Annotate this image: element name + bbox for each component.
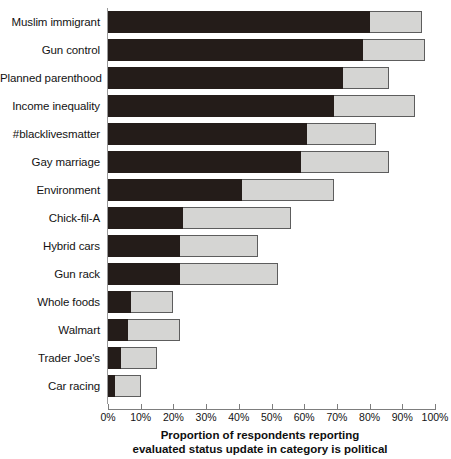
bar-row: Whole foods (0, 288, 451, 316)
bar-segment-dark (108, 375, 115, 397)
x-axis-tick (402, 404, 403, 410)
stacked-bar (108, 291, 173, 313)
bar-segment-dark (108, 235, 180, 257)
x-axis-tick (370, 404, 371, 410)
bar-row: Gun rack (0, 260, 451, 288)
category-label: Muslim immigrant (0, 8, 100, 36)
x-axis-tick (272, 404, 273, 410)
stacked-bar (108, 179, 334, 201)
category-label: Gun rack (0, 260, 100, 288)
bar-segment-dark (108, 95, 334, 117)
category-label: #blacklivesmatter (0, 120, 100, 148)
category-label: Income inequality (0, 92, 100, 120)
stacked-bar (108, 123, 376, 145)
stacked-bar (108, 207, 291, 229)
bar-segment-dark (108, 11, 370, 33)
bar-segment-dark (108, 123, 307, 145)
category-label: Chick-fil-A (0, 204, 100, 232)
stacked-bar (108, 375, 141, 397)
stacked-bar (108, 11, 422, 33)
x-axis-tick (304, 404, 305, 410)
stacked-bar (108, 235, 258, 257)
stacked-bar (108, 151, 389, 173)
bar-segment-dark (108, 67, 343, 89)
bar-segment-dark (108, 179, 242, 201)
bar-segment-dark (108, 263, 180, 285)
bar-rows: Muslim immigrantGun controlPlanned paren… (0, 8, 451, 404)
x-axis-title: Proportion of respondents reporting eval… (80, 428, 440, 456)
bar-row: Planned parenthood (0, 64, 451, 92)
x-axis-tick (337, 404, 338, 410)
x-axis-tick (206, 404, 207, 410)
bar-row: #blacklivesmatter (0, 120, 451, 148)
bar-row: Muslim immigrant (0, 8, 451, 36)
stacked-bar (108, 67, 389, 89)
bar-row: Gay marriage (0, 148, 451, 176)
category-label: Car racing (0, 372, 100, 400)
x-axis-title-line-2: evaluated status update in category is p… (80, 442, 440, 456)
bar-segment-dark (108, 347, 121, 369)
bar-segment-dark (108, 207, 183, 229)
category-label: Environment (0, 176, 100, 204)
bar-row: Car racing (0, 372, 451, 400)
stacked-bar (108, 263, 278, 285)
x-axis-tick-label: 100% (415, 411, 451, 423)
category-label: Gun control (0, 36, 100, 64)
bar-row: Hybrid cars (0, 232, 451, 260)
bar-row: Gun control (0, 36, 451, 64)
x-axis-tick (173, 404, 174, 410)
x-axis-title-line-1: Proportion of respondents reporting (80, 428, 440, 442)
x-axis-tick (435, 404, 436, 410)
bar-row: Trader Joe's (0, 344, 451, 372)
stacked-bar (108, 347, 157, 369)
category-label: Hybrid cars (0, 232, 100, 260)
stacked-bar (108, 319, 180, 341)
bar-row: Environment (0, 176, 451, 204)
category-label: Whole foods (0, 288, 100, 316)
category-label: Walmart (0, 316, 100, 344)
category-label: Trader Joe's (0, 344, 100, 372)
stacked-bar-chart: Muslim immigrantGun controlPlanned paren… (0, 0, 451, 459)
bar-segment-dark (108, 319, 128, 341)
category-label: Planned parenthood (0, 64, 100, 92)
x-axis-tick (141, 404, 142, 410)
stacked-bar (108, 39, 425, 61)
bar-row: Income inequality (0, 92, 451, 120)
bar-segment-dark (108, 39, 363, 61)
bar-row: Chick-fil-A (0, 204, 451, 232)
category-label: Gay marriage (0, 148, 100, 176)
bar-row: Walmart (0, 316, 451, 344)
stacked-bar (108, 95, 415, 117)
bar-segment-dark (108, 291, 131, 313)
x-axis-tick (108, 404, 109, 410)
bar-segment-dark (108, 151, 301, 173)
x-axis-tick (239, 404, 240, 410)
